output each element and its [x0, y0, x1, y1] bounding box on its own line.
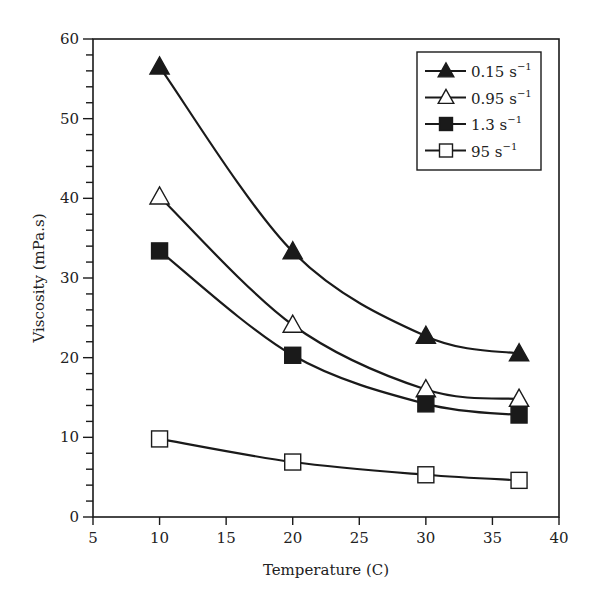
x-tick-label: 10 — [150, 529, 169, 547]
series-filled-square — [152, 243, 527, 423]
x-tick-label: 35 — [483, 529, 502, 547]
y-tick-label: 10 — [60, 428, 79, 446]
open-square-marker — [152, 431, 168, 447]
y-tick-label: 60 — [60, 30, 79, 48]
x-tick-label: 30 — [416, 529, 435, 547]
x-tick-label: 5 — [88, 529, 98, 547]
x-tick-label: 15 — [217, 529, 236, 547]
y-axis: 0102030405060 — [60, 30, 93, 526]
open-square-marker — [418, 467, 434, 483]
open-triangle-marker — [150, 187, 169, 204]
x-tick-label: 25 — [350, 529, 369, 547]
open-square-marker — [511, 472, 527, 488]
filled-triangle-marker — [416, 326, 435, 343]
y-tick-label: 20 — [60, 349, 79, 367]
filled-triangle-marker — [150, 57, 169, 74]
x-tick-label: 40 — [549, 529, 568, 547]
y-axis-title: Viscosity (mPa.s) — [30, 213, 48, 343]
legend: 0.15 s−10.95 s−11.3 s−195 s−1 — [417, 52, 541, 170]
filled-square-marker — [440, 118, 453, 131]
x-axis: 510152025303540 — [88, 517, 568, 547]
x-tick-label: 20 — [283, 529, 302, 547]
y-tick-label: 0 — [69, 508, 79, 526]
series-open-square — [152, 431, 527, 488]
viscosity-chart: 510152025303540 0102030405060 0.15 s−10.… — [0, 0, 599, 606]
filled-square-marker — [285, 347, 301, 363]
series-line — [160, 251, 519, 415]
filled-square-marker — [511, 407, 527, 423]
open-square-marker — [285, 454, 301, 470]
series-line — [160, 197, 519, 399]
open-triangle-marker — [283, 315, 302, 332]
x-axis-title: Temperature (C) — [263, 561, 389, 579]
y-tick-label: 40 — [60, 189, 79, 207]
series-open-triangle — [150, 187, 529, 406]
series-line — [160, 439, 519, 480]
open-square-marker — [440, 144, 453, 157]
y-tick-label: 50 — [60, 110, 79, 128]
filled-square-marker — [418, 396, 434, 412]
y-tick-label: 30 — [60, 269, 79, 287]
filled-square-marker — [152, 243, 168, 259]
